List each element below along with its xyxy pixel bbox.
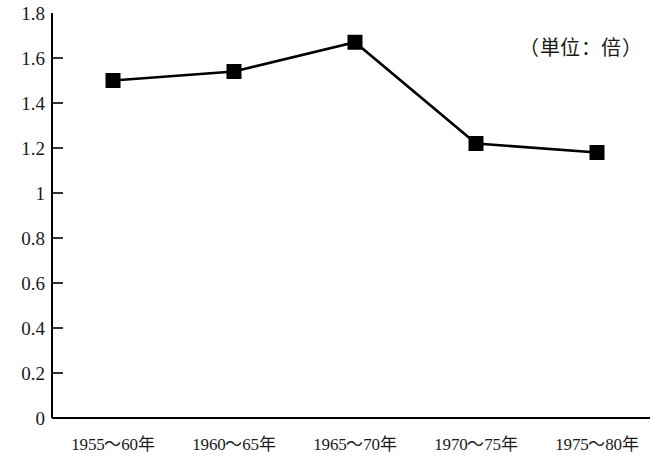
y-axis-tick-label: 0 — [36, 409, 46, 428]
series-line — [113, 42, 597, 152]
axes — [52, 13, 650, 418]
y-axis-tick-label: 0.4 — [21, 319, 45, 338]
y-axis-tick-label: 1.6 — [21, 49, 45, 68]
y-axis-ticks — [52, 58, 63, 373]
data-point-marker — [106, 73, 121, 88]
x-axis-tick-label: 1955〜60年 — [71, 436, 154, 453]
data-point-marker — [469, 136, 484, 151]
y-axis-tick-label: 0.2 — [21, 364, 45, 383]
data-markers — [106, 35, 605, 160]
x-axis-tick-label: 1965〜70年 — [313, 436, 396, 453]
y-axis-tick-label: 1.2 — [21, 139, 45, 158]
data-point-marker — [348, 35, 363, 50]
data-point-marker — [590, 145, 605, 160]
line-chart: （単位：倍） 00.20.40.60.811.21.41.61.8 1955〜6… — [0, 0, 656, 465]
chart-canvas — [0, 0, 656, 465]
plot-area: 00.20.40.60.811.21.41.61.8 1955〜60年1960〜… — [0, 0, 656, 465]
y-axis-tick-label: 0.6 — [21, 274, 45, 293]
y-axis-tick-label: 1.4 — [21, 94, 45, 113]
y-axis-tick-label: 0.8 — [21, 229, 45, 248]
y-axis-tick-label: 1 — [36, 184, 46, 203]
x-axis-tick-label: 1975〜80年 — [555, 436, 638, 453]
x-axis-tick-label: 1960〜65年 — [192, 436, 275, 453]
x-axis-tick-label: 1970〜75年 — [434, 436, 517, 453]
y-axis-tick-label: 1.8 — [21, 4, 45, 23]
data-series — [113, 42, 597, 152]
data-point-marker — [227, 64, 242, 79]
